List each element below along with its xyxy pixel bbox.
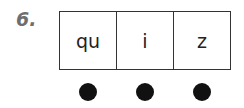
sound-box-row: qu i z <box>59 11 231 70</box>
sound-cell-3: z <box>174 12 230 69</box>
sound-dot-2 <box>136 83 154 101</box>
sound-cell-1: qu <box>60 12 117 69</box>
item-number: 6. <box>16 8 36 30</box>
sound-dot-1 <box>79 83 97 101</box>
sound-dot-3 <box>193 83 211 101</box>
sound-cell-2: i <box>117 12 174 69</box>
